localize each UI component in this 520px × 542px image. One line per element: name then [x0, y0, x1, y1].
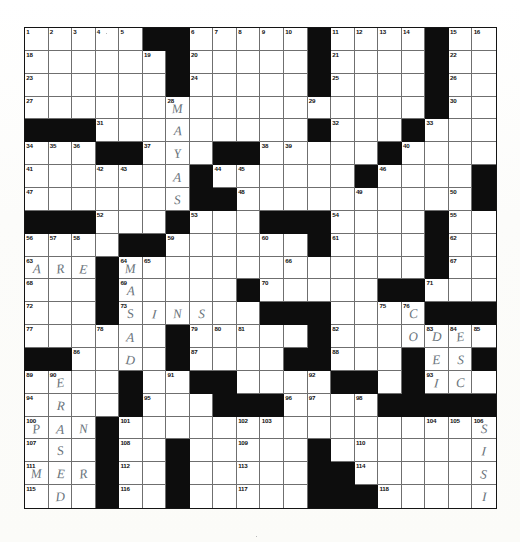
letter-cell[interactable] [355, 119, 379, 142]
letter-cell[interactable]: I [472, 485, 496, 508]
letter-cell[interactable] [237, 257, 261, 280]
letter-cell[interactable]: 102 [237, 417, 261, 440]
letter-cell[interactable]: 116 [119, 485, 143, 508]
letter-cell[interactable] [284, 165, 308, 188]
letter-cell[interactable] [213, 439, 237, 462]
letter-cell[interactable] [378, 462, 402, 485]
letter-cell[interactable]: 38 [260, 142, 284, 165]
letter-cell[interactable] [425, 165, 449, 188]
letter-cell[interactable]: 109 [237, 439, 261, 462]
letter-cell[interactable] [96, 97, 120, 120]
letter-cell[interactable] [72, 165, 96, 188]
letter-cell[interactable] [49, 51, 73, 74]
letter-cell[interactable] [378, 97, 402, 120]
letter-cell[interactable] [472, 119, 496, 142]
letter-cell[interactable]: 84E [449, 325, 473, 348]
letter-cell[interactable] [119, 211, 143, 234]
letter-cell[interactable]: 69A [119, 279, 143, 302]
letter-cell[interactable] [143, 417, 167, 440]
letter-cell[interactable]: 64M [119, 257, 143, 280]
letter-cell[interactable] [190, 97, 214, 120]
letter-cell[interactable] [472, 211, 496, 234]
letter-cell[interactable]: 83D [425, 325, 449, 348]
letter-cell[interactable]: 8 [237, 28, 261, 51]
letter-cell[interactable] [284, 417, 308, 440]
letter-cell[interactable] [260, 188, 284, 211]
letter-cell[interactable]: 39 [284, 142, 308, 165]
letter-cell[interactable]: R [72, 462, 96, 485]
letter-cell[interactable] [402, 188, 426, 211]
letter-cell[interactable]: 100P [25, 417, 49, 440]
letter-cell[interactable]: 65 [143, 257, 167, 280]
letter-cell[interactable]: 53 [190, 211, 214, 234]
letter-cell[interactable]: 26 [449, 74, 473, 97]
letter-cell[interactable]: 9 [260, 28, 284, 51]
letter-cell[interactable]: 6 [190, 28, 214, 51]
letter-cell[interactable] [449, 279, 473, 302]
letter-cell[interactable] [166, 279, 190, 302]
letter-cell[interactable]: 32 [331, 119, 355, 142]
letter-cell[interactable] [49, 279, 73, 302]
letter-cell[interactable]: 11 [331, 28, 355, 51]
letter-cell[interactable] [96, 348, 120, 371]
letter-cell[interactable]: 41 [25, 165, 49, 188]
letter-cell[interactable] [213, 348, 237, 371]
letter-cell[interactable] [143, 119, 167, 142]
letter-cell[interactable] [402, 165, 426, 188]
letter-cell[interactable] [284, 119, 308, 142]
letter-cell[interactable]: 27 [25, 97, 49, 120]
letter-cell[interactable] [472, 74, 496, 97]
letter-cell[interactable]: 82 [331, 325, 355, 348]
letter-cell[interactable]: A [166, 165, 190, 188]
letter-cell[interactable] [213, 485, 237, 508]
letter-cell[interactable] [355, 234, 379, 257]
letter-cell[interactable] [284, 97, 308, 120]
letter-cell[interactable]: 73S [119, 302, 143, 325]
letter-cell[interactable] [143, 439, 167, 462]
letter-cell[interactable] [49, 165, 73, 188]
letter-cell[interactable]: E [425, 348, 449, 371]
letter-cell[interactable]: R [49, 257, 73, 280]
letter-cell[interactable]: 88 [331, 348, 355, 371]
letter-cell[interactable] [72, 439, 96, 462]
letter-cell[interactable] [190, 439, 214, 462]
letter-cell[interactable] [190, 279, 214, 302]
letter-cell[interactable] [96, 394, 120, 417]
letter-cell[interactable] [72, 371, 96, 394]
letter-cell[interactable] [72, 279, 96, 302]
letter-cell[interactable]: 111M [25, 462, 49, 485]
letter-cell[interactable]: C [449, 371, 473, 394]
letter-cell[interactable] [378, 188, 402, 211]
letter-cell[interactable]: 70 [260, 279, 284, 302]
letter-cell[interactable]: 113 [237, 462, 261, 485]
letter-cell[interactable]: I [143, 302, 167, 325]
letter-cell[interactable] [378, 348, 402, 371]
letter-cell[interactable] [308, 417, 332, 440]
letter-cell[interactable] [96, 188, 120, 211]
letter-cell[interactable] [308, 257, 332, 280]
letter-cell[interactable] [378, 74, 402, 97]
letter-cell[interactable] [472, 142, 496, 165]
letter-cell[interactable] [402, 97, 426, 120]
letter-cell[interactable]: 101 [119, 417, 143, 440]
letter-cell[interactable] [72, 394, 96, 417]
letter-cell[interactable]: 2 [49, 28, 73, 51]
letter-cell[interactable] [378, 234, 402, 257]
letter-cell[interactable]: 42 [96, 165, 120, 188]
letter-cell[interactable]: 78 [96, 325, 120, 348]
letter-cell[interactable]: 52 [96, 211, 120, 234]
letter-cell[interactable] [331, 165, 355, 188]
letter-cell[interactable]: 15 [449, 28, 473, 51]
letter-cell[interactable] [308, 142, 332, 165]
letter-cell[interactable] [72, 485, 96, 508]
letter-cell[interactable] [72, 51, 96, 74]
letter-cell[interactable]: A [119, 325, 143, 348]
letter-cell[interactable] [402, 439, 426, 462]
letter-cell[interactable] [143, 74, 167, 97]
letter-cell[interactable]: S [449, 348, 473, 371]
letter-cell[interactable]: 36 [72, 142, 96, 165]
letter-cell[interactable] [425, 439, 449, 462]
letter-cell[interactable] [425, 485, 449, 508]
letter-cell[interactable]: 25 [331, 74, 355, 97]
letter-cell[interactable] [402, 485, 426, 508]
